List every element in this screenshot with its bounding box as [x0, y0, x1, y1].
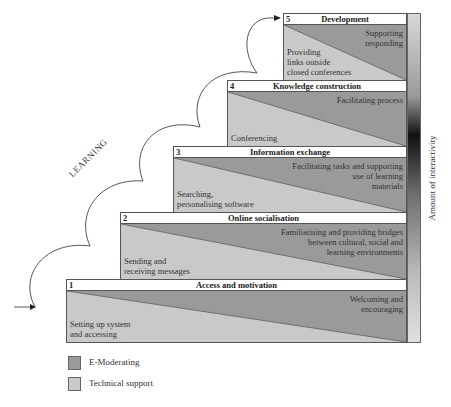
step-5: 5 Development Supporting responding Prov…	[283, 13, 407, 81]
step-body: Welcoming and encouraging Setting up sys…	[67, 291, 406, 342]
step-title: Access and motivation	[67, 280, 406, 290]
step-body: Supporting responding Providing links ou…	[284, 25, 406, 80]
e-moderating-swatch	[68, 356, 81, 370]
technical-support-text: Setting up system and accessing	[70, 319, 130, 339]
learning-label: LEARNING	[67, 137, 109, 179]
technical-support-text: Providing links outside closed conferenc…	[287, 47, 351, 77]
step-title: Information exchange	[174, 147, 406, 157]
legend-label: E-Moderating	[89, 357, 139, 367]
technical-support-swatch	[68, 377, 81, 391]
step-title: Online socialisation	[121, 213, 406, 223]
e-moderating-text: Facilitating tasks and supporting use of…	[292, 161, 403, 191]
interactivity-axis-label: Amount of interactivity	[427, 136, 437, 221]
step-3: 3 Information exchange Facilitating task…	[173, 146, 407, 213]
e-moderating-text: Familiarising and providing bridges betw…	[281, 227, 403, 257]
step-4: 4 Knowledge construction Facilitating pr…	[227, 80, 407, 147]
step-header: 2 Online socialisation	[121, 213, 406, 224]
technical-support-text: Sending and receiving messages	[124, 256, 190, 276]
technical-support-text: Conferencing	[231, 133, 277, 143]
technical-support-text: Searching, personalising software	[177, 189, 254, 209]
interactivity-gradient-bar	[407, 13, 421, 343]
e-moderating-text: Welcoming and encouraging	[350, 294, 403, 314]
step-header: 4 Knowledge construction	[228, 81, 406, 92]
step-1: 1 Access and motivation Welcoming and en…	[66, 279, 407, 343]
e-moderating-text: Supporting responding	[365, 28, 403, 48]
legend-label: Technical support	[89, 378, 153, 388]
step-header: 1 Access and motivation	[67, 280, 406, 291]
step-title: Development	[284, 14, 406, 24]
step-2: 2 Online socialisation Familiarising and…	[120, 212, 407, 280]
step-body: Facilitating tasks and supporting use of…	[174, 158, 406, 212]
step-header: 3 Information exchange	[174, 147, 406, 158]
step-header: 5 Development	[284, 14, 406, 25]
step-title: Knowledge construction	[228, 81, 406, 91]
step-body: Facilitating process Conferencing	[228, 92, 406, 146]
step-body: Familiarising and providing bridges betw…	[121, 224, 406, 279]
e-moderating-text: Facilitating process	[337, 95, 403, 105]
